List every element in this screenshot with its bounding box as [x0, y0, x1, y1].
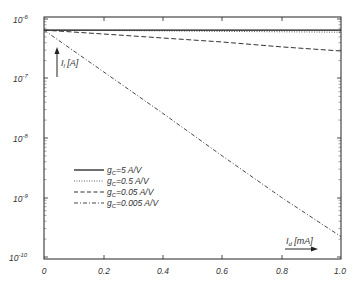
- x-tick-label: 0.8: [276, 266, 288, 276]
- x-tick-label: 0.6: [216, 266, 228, 276]
- svg-text:Il [A]: Il [A]: [61, 58, 79, 69]
- y-minor-ticks: [44, 22, 341, 239]
- legend-entry: gC=0.005 A/V: [107, 198, 159, 209]
- arrow-right-icon: [311, 247, 318, 252]
- x-tick-label: 1.0: [334, 266, 346, 276]
- y-tick-label: 10-6: [13, 14, 28, 25]
- y-tick-label: 10-10: [9, 252, 28, 263]
- plot-frame: [44, 17, 341, 259]
- y-major-ticks: [44, 19, 341, 257]
- x-ticks: [104, 17, 282, 259]
- legend-entry: gC=0.5 A/V: [107, 176, 150, 187]
- x-tick-label: 0.2: [98, 266, 110, 276]
- arrow-up-icon: [55, 47, 60, 54]
- x-tick-label: 0.4: [157, 266, 169, 276]
- legend: gC=5 A/V gC=0.5 A/V gC=0.05 A/V gC=0.005…: [74, 165, 159, 209]
- series-line-dashed: [44, 30, 341, 51]
- chart: 10-6 10-7 10-8 10-9 10-10 0 0.2 0.4 0.6 …: [0, 0, 361, 292]
- svg-text:Id [mA]: Id [mA]: [286, 236, 313, 247]
- x-tick-label: 0: [42, 266, 47, 276]
- legend-entry: gC=0.05 A/V: [107, 187, 155, 198]
- y-tick-label: 10-7: [13, 73, 28, 84]
- series-line-dashdot: [44, 30, 341, 237]
- x-axis-label: Id [mA]: [285, 236, 318, 252]
- legend-entry: gC=5 A/V: [107, 165, 143, 176]
- y-tick-label: 10-9: [13, 193, 28, 204]
- y-tick-label: 10-8: [13, 133, 28, 144]
- data-series: [44, 30, 341, 237]
